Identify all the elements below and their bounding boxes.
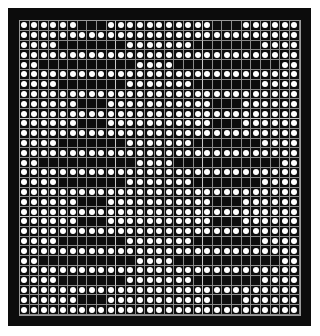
board-cell[interactable] xyxy=(242,237,252,247)
board-cell[interactable] xyxy=(87,109,97,119)
board-cell[interactable] xyxy=(20,207,30,217)
board-cell[interactable] xyxy=(251,276,261,286)
board-cell[interactable] xyxy=(290,139,300,149)
board-cell[interactable] xyxy=(194,246,204,256)
board-cell[interactable] xyxy=(116,119,126,129)
board-cell[interactable] xyxy=(68,50,78,60)
board-cell[interactable] xyxy=(20,178,30,188)
board-cell[interactable] xyxy=(145,188,155,198)
board-cell[interactable] xyxy=(49,237,59,247)
board-cell[interactable] xyxy=(251,305,261,315)
board-cell[interactable] xyxy=(203,50,213,60)
board-cell[interactable] xyxy=(280,305,290,315)
board-cell[interactable] xyxy=(145,70,155,80)
board-cell[interactable] xyxy=(261,41,271,51)
board-cell[interactable] xyxy=(97,90,107,100)
board-cell[interactable] xyxy=(145,207,155,217)
board-cell[interactable] xyxy=(155,158,165,168)
board-cell[interactable] xyxy=(49,80,59,90)
board-cell[interactable] xyxy=(271,295,281,305)
board-cell[interactable] xyxy=(232,207,242,217)
board-cell[interactable] xyxy=(116,31,126,41)
board-cell[interactable] xyxy=(242,50,252,60)
board-cell[interactable] xyxy=(261,139,271,149)
board-cell[interactable] xyxy=(155,148,165,158)
board-cell[interactable] xyxy=(222,158,232,168)
board-cell[interactable] xyxy=(68,60,78,70)
board-cell[interactable] xyxy=(290,41,300,51)
board-cell[interactable] xyxy=(232,158,242,168)
board-cell[interactable] xyxy=(174,246,184,256)
board-cell[interactable] xyxy=(136,178,146,188)
board-cell[interactable] xyxy=(49,246,59,256)
board-cell[interactable] xyxy=(261,178,271,188)
board-cell[interactable] xyxy=(107,31,117,41)
board-cell[interactable] xyxy=(271,158,281,168)
board-cell[interactable] xyxy=(20,129,30,139)
board-cell[interactable] xyxy=(203,227,213,237)
board-cell[interactable] xyxy=(184,295,194,305)
board-cell[interactable] xyxy=(174,60,184,70)
board-cell[interactable] xyxy=(222,31,232,41)
board-cell[interactable] xyxy=(126,227,136,237)
board-cell[interactable] xyxy=(116,276,126,286)
board-cell[interactable] xyxy=(251,90,261,100)
board-cell[interactable] xyxy=(126,237,136,247)
board-cell[interactable] xyxy=(126,217,136,227)
board-cell[interactable] xyxy=(126,178,136,188)
board-cell[interactable] xyxy=(271,197,281,207)
board-cell[interactable] xyxy=(280,148,290,158)
board-cell[interactable] xyxy=(136,119,146,129)
board-cell[interactable] xyxy=(68,305,78,315)
board-cell[interactable] xyxy=(49,148,59,158)
board-cell[interactable] xyxy=(30,158,40,168)
board-cell[interactable] xyxy=(136,276,146,286)
board-cell[interactable] xyxy=(174,286,184,296)
board-cell[interactable] xyxy=(203,41,213,51)
board-cell[interactable] xyxy=(280,41,290,51)
board-cell[interactable] xyxy=(87,237,97,247)
board-cell[interactable] xyxy=(30,276,40,286)
board-cell[interactable] xyxy=(126,21,136,31)
board-cell[interactable] xyxy=(232,178,242,188)
board-cell[interactable] xyxy=(271,246,281,256)
board-cell[interactable] xyxy=(87,227,97,237)
board-cell[interactable] xyxy=(30,50,40,60)
board-cell[interactable] xyxy=(165,70,175,80)
board-cell[interactable] xyxy=(49,119,59,129)
board-cell[interactable] xyxy=(261,21,271,31)
board-cell[interactable] xyxy=(251,80,261,90)
board-cell[interactable] xyxy=(107,99,117,109)
board-cell[interactable] xyxy=(165,99,175,109)
board-cell[interactable] xyxy=(203,60,213,70)
board-cell[interactable] xyxy=(39,246,49,256)
board-cell[interactable] xyxy=(271,90,281,100)
board-cell[interactable] xyxy=(116,41,126,51)
board-cell[interactable] xyxy=(20,60,30,70)
board-cell[interactable] xyxy=(251,188,261,198)
board-cell[interactable] xyxy=(136,237,146,247)
board-cell[interactable] xyxy=(30,90,40,100)
board-cell[interactable] xyxy=(107,227,117,237)
board-cell[interactable] xyxy=(174,21,184,31)
board-cell[interactable] xyxy=(68,31,78,41)
board-cell[interactable] xyxy=(242,99,252,109)
board-cell[interactable] xyxy=(242,197,252,207)
board-cell[interactable] xyxy=(290,50,300,60)
board-cell[interactable] xyxy=(68,80,78,90)
board-cell[interactable] xyxy=(165,109,175,119)
board-cell[interactable] xyxy=(174,207,184,217)
board-cell[interactable] xyxy=(39,168,49,178)
board-cell[interactable] xyxy=(280,295,290,305)
board-cell[interactable] xyxy=(116,305,126,315)
board-cell[interactable] xyxy=(97,266,107,276)
board-cell[interactable] xyxy=(194,207,204,217)
board-cell[interactable] xyxy=(145,21,155,31)
board-cell[interactable] xyxy=(290,109,300,119)
board-cell[interactable] xyxy=(184,119,194,129)
board-cell[interactable] xyxy=(78,90,88,100)
board-cell[interactable] xyxy=(280,237,290,247)
board-cell[interactable] xyxy=(232,90,242,100)
board-cell[interactable] xyxy=(78,188,88,198)
board-cell[interactable] xyxy=(136,129,146,139)
